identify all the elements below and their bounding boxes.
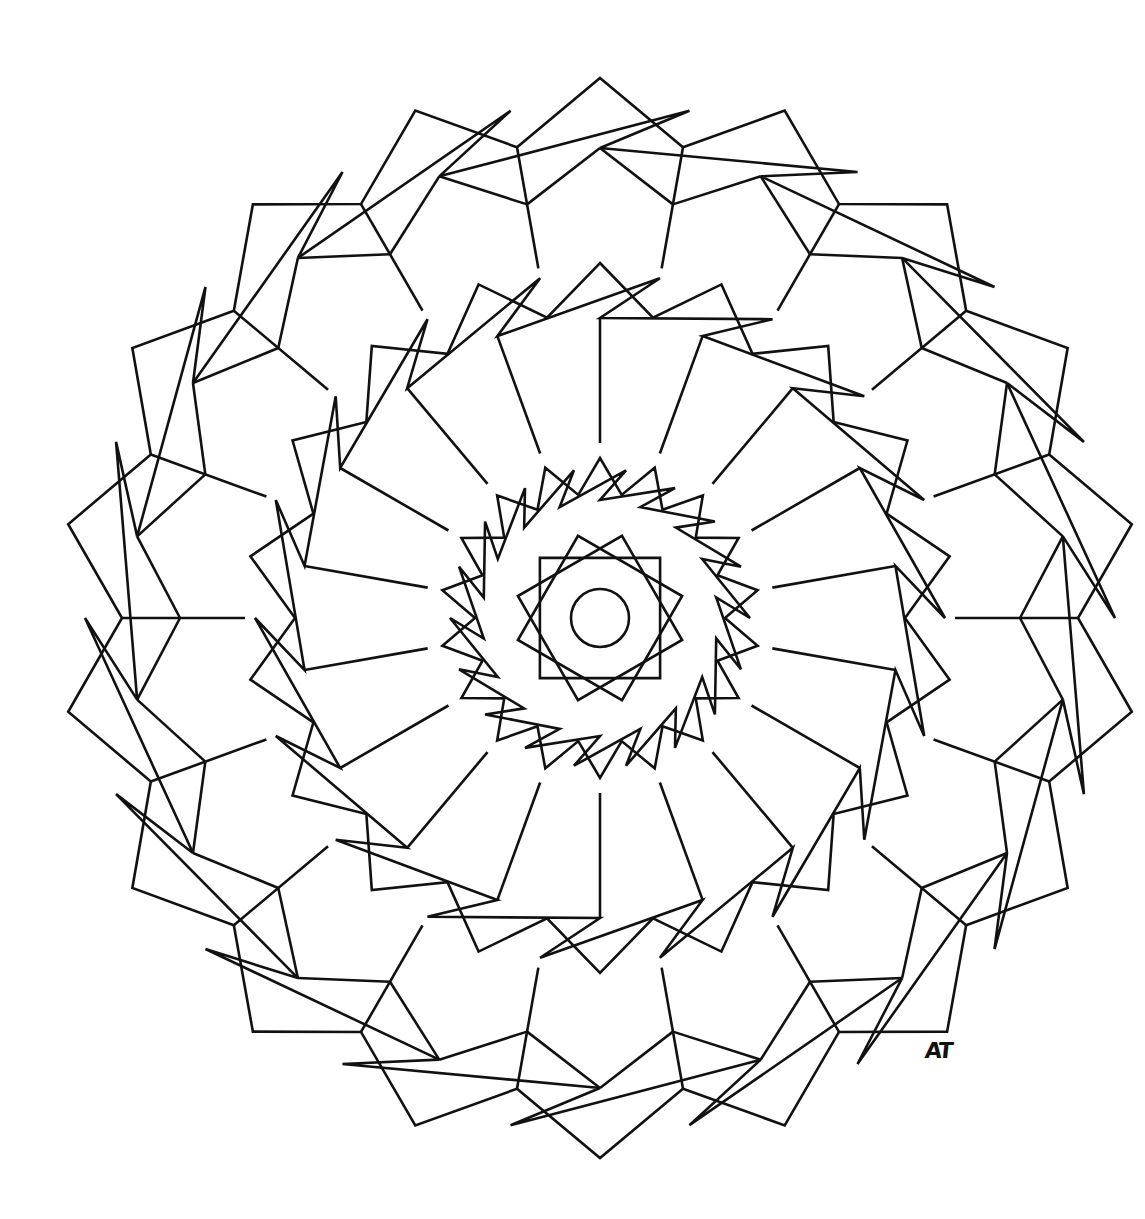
outer-cell-edge [439,176,527,204]
center-square-a [540,558,660,678]
radial-spoke-inner [772,566,895,588]
radial-spoke-outer [517,147,538,268]
mandala-drawing [0,0,1145,1219]
radial-spoke-outer [934,739,1050,781]
outer-cell-edge [600,148,673,204]
radial-spoke-inner [340,706,448,769]
outer-cell-edge [298,254,390,258]
radial-spoke-inner [752,706,860,769]
center-circle [571,589,629,647]
radial-spoke-inner [712,388,792,484]
center-square-c [518,536,682,700]
outer-cell-edge [439,1032,527,1060]
radial-spoke-inner [772,648,895,670]
radial-spoke-inner [660,336,703,453]
radial-spoke-outer [361,204,423,311]
center-square-b [518,536,682,700]
radial-spoke-inner [407,752,487,848]
outer-cell-edge [902,258,922,348]
radial-spoke-inner [305,648,428,670]
radial-spoke-outer [361,925,423,1032]
artist-signature: AT [924,1038,953,1063]
outer-cell-edge [995,762,1007,853]
radial-spoke-outer [778,204,840,311]
outer-cell-edge [810,978,902,982]
outer-cell-edge [278,888,298,978]
outer-cell-edge [278,258,298,348]
outer-cell-edge [137,536,180,618]
outer-cell-edge [193,383,205,474]
outer-cell-edge [902,888,922,978]
inner-star-offset [450,470,750,765]
radial-spoke-outer [234,311,328,390]
radial-spoke-outer [517,968,538,1089]
radial-spoke-outer [234,846,328,925]
radial-spoke-outer [778,925,840,1032]
outer-cell-edge [1020,536,1063,618]
outer-cell-edge [673,176,761,204]
radial-spoke-outer [872,311,966,390]
outer-cell-edge [527,148,600,204]
outer-cell-edge [193,853,278,888]
radial-spoke-inner [497,782,540,899]
outer-cell-edge [995,383,1007,474]
radial-spoke-inner [305,566,428,588]
radial-spoke-inner [407,388,487,484]
outer-cell-edge [193,762,205,853]
radial-spoke-inner [660,782,703,899]
radial-spoke-outer [872,846,966,925]
outer-cell-edge [298,978,390,982]
radial-spoke-inner [497,336,540,453]
outer-cell-edge [1020,618,1063,700]
radial-spoke-inner [340,468,448,531]
outer-cell-edge [673,1032,761,1060]
radial-spoke-outer [151,455,267,497]
outer-cell-edge [600,1032,673,1088]
radial-spoke-outer [934,455,1050,497]
radial-spoke-outer [151,739,267,781]
radial-spoke-outer [662,968,683,1089]
outer-cell-edge [137,474,205,536]
outer-cell-edge [137,618,180,700]
radial-spoke-inner [752,468,860,531]
outer-cell-edge [527,1032,600,1088]
inner-star [442,458,757,778]
outer-cell-edge [922,348,1007,383]
radial-spoke-outer [662,147,683,268]
outer-cell-edge [995,700,1063,762]
outer-cell-edge [810,254,902,258]
radial-spoke-inner [712,752,792,848]
